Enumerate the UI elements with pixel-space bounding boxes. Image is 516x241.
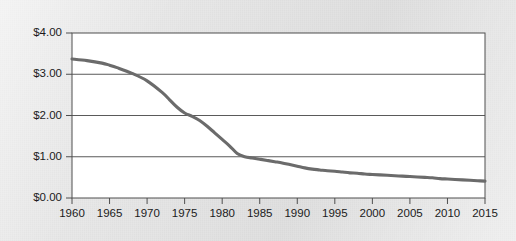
x-axis-tick-label: 2005	[397, 207, 423, 219]
x-axis-tick-label: 1990	[284, 207, 310, 219]
x-axis-tick-label: 2010	[435, 207, 461, 219]
y-axis-tick-label: $1.00	[33, 150, 62, 162]
y-axis-tick-label: $0.00	[33, 191, 62, 203]
x-axis-tick-label: 1970	[134, 207, 160, 219]
x-axis-tick-label: 2015	[472, 207, 498, 219]
y-axis-tick-label: $2.00	[33, 109, 62, 121]
x-axis-tick-label: 1965	[97, 207, 123, 219]
x-axis-tick-label: 1975	[172, 207, 198, 219]
x-axis-tick-labels: 1960196519701975198019851990199520002005…	[59, 207, 498, 219]
chart-canvas: $4.00$3.00$2.00$1.00$0.00 19601965197019…	[0, 0, 516, 241]
x-axis-tick-label: 1985	[247, 207, 273, 219]
x-axis-tick-label: 1995	[322, 207, 348, 219]
x-axis-tick-marks	[72, 198, 485, 204]
x-axis-tick-label: 1980	[209, 207, 235, 219]
line-chart-figure: $4.00$3.00$2.00$1.00$0.00 19601965197019…	[0, 0, 516, 241]
y-axis-tick-label: $4.00	[33, 26, 62, 38]
x-axis-tick-label: 1960	[59, 207, 85, 219]
x-axis-tick-label: 2000	[360, 207, 386, 219]
y-axis-tick-labels: $4.00$3.00$2.00$1.00$0.00	[33, 26, 62, 203]
y-axis-tick-label: $3.00	[33, 67, 62, 79]
